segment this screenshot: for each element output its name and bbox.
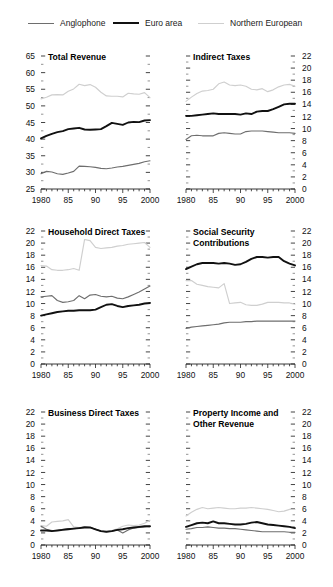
y-tick-label: 2 — [30, 347, 35, 357]
y-tick-label: 14 — [26, 455, 36, 465]
legend-label: Euro area — [145, 19, 182, 28]
y-tick-label: 4 — [302, 516, 307, 526]
x-tick-label: 90 — [91, 551, 101, 561]
line-swatch-icon — [28, 23, 54, 24]
y-tick-label: 2 — [302, 172, 307, 182]
y-tick-label: 12 — [302, 112, 312, 122]
y-tick-label: 18 — [302, 75, 312, 85]
y-tick-label: 16 — [26, 262, 36, 272]
clipped-caption — [0, 0, 333, 11]
x-tick-label: 85 — [64, 370, 74, 380]
x-tick-label: 90 — [236, 195, 246, 205]
y-tick-label: 22 — [302, 407, 312, 417]
y-tick-label: 4 — [30, 335, 35, 345]
x-tick-label: 90 — [236, 551, 246, 561]
legend-label: Northern European — [230, 19, 302, 28]
x-tick-label: 95 — [118, 551, 128, 561]
y-tick-label: 8 — [302, 311, 307, 321]
y-tick-label: 2 — [302, 347, 307, 357]
series-line-anglophone — [186, 131, 295, 139]
y-tick-label: 12 — [302, 468, 312, 478]
y-tick-label: 30 — [26, 167, 36, 177]
x-tick-label: 95 — [263, 370, 273, 380]
line-swatch-icon — [113, 22, 139, 24]
x-tick-label: 2000 — [286, 195, 305, 205]
x-tick-label: 90 — [91, 370, 101, 380]
x-tick-label: 2000 — [286, 551, 305, 561]
series-line-northern-european — [186, 281, 295, 306]
series-line-euro-area — [186, 257, 295, 269]
y-tick-label: 18 — [302, 431, 312, 441]
y-tick-label: 2 — [302, 528, 307, 538]
y-tick-label: 22 — [26, 407, 36, 417]
legend-item-anglophone: Anglophone — [28, 14, 105, 32]
panel-title-line: Social Security — [193, 227, 255, 238]
panel-total-revenue: 19808590952000253035404550556065Total Re… — [0, 44, 166, 219]
plot-area: 198085909520000246810121416182022 — [0, 400, 166, 575]
x-tick-label: 2000 — [141, 195, 160, 205]
series-line-northern-european — [186, 82, 295, 101]
series-line-northern-european — [41, 84, 150, 99]
legend-item-northern-european: Northern European — [198, 14, 302, 32]
y-tick-label: 8 — [302, 136, 307, 146]
series-line-anglophone — [186, 527, 295, 532]
y-tick-label: 35 — [26, 151, 36, 161]
y-tick-label: 6 — [30, 504, 35, 514]
series-line-northern-european — [41, 239, 150, 270]
panel-title-line: Other Revenue — [193, 419, 278, 430]
panel-property-income-other-revenue: 198085909520000246810121416182022Propert… — [166, 400, 332, 575]
panel-household-direct-taxes: 198085909520000246810121416182022Househo… — [0, 219, 166, 394]
y-tick-label: 2 — [30, 528, 35, 538]
y-tick-label: 14 — [26, 274, 36, 284]
y-tick-label: 45 — [26, 118, 36, 128]
legend-label: Anglophone — [60, 19, 105, 28]
y-tick-label: 18 — [302, 250, 312, 260]
x-tick-label: 1980 — [177, 551, 196, 561]
panel-title-line: Total Revenue — [48, 52, 106, 63]
y-tick-label: 50 — [26, 101, 36, 111]
y-tick-label: 6 — [30, 323, 35, 333]
y-tick-label: 20 — [26, 419, 36, 429]
plot-area: 19808590952000253035404550556065 — [0, 44, 166, 219]
y-tick-label: 22 — [302, 51, 312, 61]
y-tick-label: 6 — [302, 148, 307, 158]
panel-title: Property Income andOther Revenue — [193, 408, 278, 429]
x-tick-label: 85 — [209, 195, 219, 205]
y-tick-label: 20 — [302, 238, 312, 248]
y-tick-label: 60 — [26, 68, 36, 78]
panel-title: Total Revenue — [48, 52, 106, 63]
y-tick-label: 20 — [302, 63, 312, 73]
y-tick-label: 4 — [30, 516, 35, 526]
x-tick-label: 85 — [64, 551, 74, 561]
x-tick-label: 2000 — [141, 551, 160, 561]
y-tick-label: 6 — [302, 504, 307, 514]
y-tick-label: 4 — [302, 335, 307, 345]
y-tick-label: 14 — [302, 455, 312, 465]
panel-title: Indirect Taxes — [193, 52, 250, 63]
y-tick-label: 22 — [26, 226, 36, 236]
x-tick-label: 1980 — [32, 195, 51, 205]
y-tick-label: 10 — [302, 299, 312, 309]
panel-business-direct-taxes: 198085909520000246810121416182022Busines… — [0, 400, 166, 575]
series-line-euro-area — [41, 303, 150, 316]
plot-area: 198085909520000246810121416182022 — [166, 44, 332, 219]
panel-title-line: Household Direct Taxes — [48, 227, 145, 238]
series-line-euro-area — [41, 526, 150, 531]
y-tick-label: 12 — [26, 468, 36, 478]
x-tick-label: 1980 — [177, 195, 196, 205]
y-tick-label: 20 — [26, 238, 36, 248]
x-tick-label: 90 — [236, 370, 246, 380]
x-tick-label: 95 — [118, 195, 128, 205]
y-tick-label: 55 — [26, 84, 36, 94]
chart-legend: Anglophone Euro area Northern European — [0, 14, 333, 32]
y-tick-label: 16 — [26, 443, 36, 453]
y-tick-label: 4 — [302, 160, 307, 170]
x-tick-label: 1980 — [177, 370, 196, 380]
y-tick-label: 40 — [26, 134, 36, 144]
x-tick-label: 2000 — [286, 370, 305, 380]
y-tick-label: 10 — [302, 480, 312, 490]
y-tick-label: 16 — [302, 87, 312, 97]
series-line-anglophone — [41, 286, 150, 302]
y-tick-label: 22 — [302, 226, 312, 236]
y-tick-label: 14 — [302, 274, 312, 284]
